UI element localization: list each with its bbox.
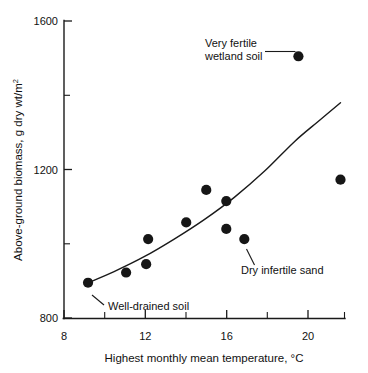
leader-line-well-drained-soil xyxy=(92,295,104,305)
x-tick-label-20: 20 xyxy=(302,330,314,342)
data-point-marker xyxy=(201,185,211,195)
x-axis-ticks xyxy=(64,310,345,318)
x-axis-title: Highest monthly mean temperature, °C xyxy=(105,352,304,364)
annotation-very-fertile-wetland-soil-line1: Very fertile xyxy=(205,37,257,49)
data-point-marker xyxy=(221,196,231,206)
y-tick-labels: 1600 1200 800 xyxy=(34,15,58,324)
data-point-marker xyxy=(141,259,151,269)
fitted-trend-curve xyxy=(88,103,340,283)
y-tick-label-1600: 1600 xyxy=(34,15,58,27)
data-point-marker xyxy=(335,175,345,185)
biomass-vs-temperature-figure: 1600 1200 800 8 12 16 20 Highest monthly… xyxy=(0,0,368,373)
scatter-plot-canvas: 1600 1200 800 8 12 16 20 Highest monthly… xyxy=(0,0,368,373)
annotation-very-fertile-wetland-soil: Very fertile wetland soil xyxy=(204,37,262,62)
annotation-dry-infertile-sand: Dry infertile sand xyxy=(241,264,324,276)
data-point-marker xyxy=(239,234,249,244)
x-tick-label-12: 12 xyxy=(139,330,151,342)
data-point-marker xyxy=(121,267,131,277)
x-tick-label-16: 16 xyxy=(221,330,233,342)
data-point-marker xyxy=(293,51,303,61)
y-tick-label-800: 800 xyxy=(40,312,58,324)
x-tick-labels: 8 12 16 20 xyxy=(61,330,314,342)
y-axis-title-base: Above-ground biomass, g dry wt/m xyxy=(12,83,24,261)
svg-text:Above-ground biomass, g dry wt: Above-ground biomass, g dry wt/m2 xyxy=(11,79,24,261)
data-point-marker xyxy=(143,234,153,244)
data-point-marker xyxy=(181,217,191,227)
y-axis-ticks xyxy=(64,21,72,318)
y-axis-title-superscript: 2 xyxy=(11,79,20,83)
data-point-markers xyxy=(83,51,346,288)
leader-line-dry-infertile-sand xyxy=(247,249,255,265)
annotation-very-fertile-wetland-soil-line2: wetland soil xyxy=(204,50,262,62)
data-point-marker xyxy=(83,278,93,288)
annotation-well-drained-soil: Well-drained soil xyxy=(108,300,189,312)
y-tick-label-1200: 1200 xyxy=(34,164,58,176)
x-tick-label-8: 8 xyxy=(61,330,67,342)
data-point-marker xyxy=(221,224,231,234)
y-axis-title: Above-ground biomass, g dry wt/m2 xyxy=(11,79,24,261)
